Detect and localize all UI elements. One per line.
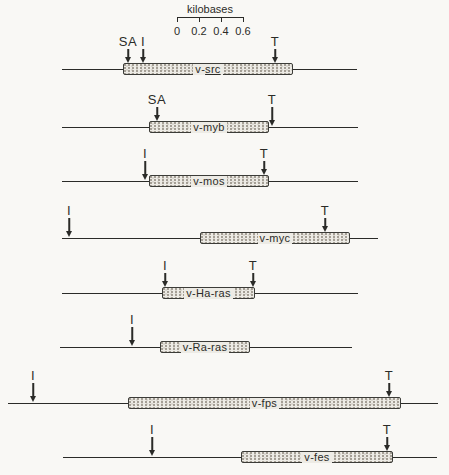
marker-arrow-head-icon <box>129 340 135 346</box>
scale-tick-label: 0 <box>174 25 180 37</box>
marker-arrow-stem <box>127 49 129 57</box>
marker-label-t: T <box>249 260 257 272</box>
marker-arrow-head-icon <box>30 396 36 402</box>
gene-label: v-Ra-ras <box>181 342 230 353</box>
scale-title: kilobases <box>187 3 233 15</box>
gene-box: v-mos <box>149 175 269 187</box>
marker-arrow-stem <box>144 161 146 174</box>
marker-label-i: I <box>141 36 145 48</box>
marker-arrow-stem <box>386 437 388 445</box>
marker-arrow-stem <box>151 437 153 450</box>
marker-label-t: T <box>383 424 391 436</box>
marker-label-t: T <box>321 205 329 217</box>
gene-label: v-src <box>193 64 222 75</box>
marker-label-t: T <box>385 370 393 382</box>
marker-arrow-stem <box>388 383 390 391</box>
marker-arrow-head-icon <box>384 445 390 451</box>
gene-box: v-myc <box>200 232 350 244</box>
marker-label-i: I <box>130 314 134 326</box>
marker-arrow-head-icon <box>386 391 392 397</box>
scale-tick-label: 0.6 <box>235 25 250 37</box>
scale-bar <box>177 17 243 18</box>
marker-arrow-head-icon <box>154 115 160 121</box>
gene-box: v-fps <box>128 397 401 409</box>
marker-arrow-head-icon <box>142 174 148 180</box>
marker-arrow-stem <box>164 273 166 281</box>
scale-tick-label: 0.4 <box>213 25 228 37</box>
gene-label-underlined: src <box>205 63 221 75</box>
marker-arrow-head-icon <box>250 281 256 287</box>
gene-box: v-Ra-ras <box>160 341 250 353</box>
marker-label-t: T <box>268 94 276 106</box>
gene-box: v-Ha-ras <box>162 287 255 299</box>
marker-label-i: I <box>31 370 35 382</box>
marker-arrow-stem <box>32 383 34 396</box>
marker-label-i: I <box>67 205 71 217</box>
gene-label: v-myc <box>258 233 293 244</box>
marker-arrow-stem <box>263 161 265 169</box>
marker-label-i: I <box>163 260 167 272</box>
marker-arrow-stem <box>156 107 158 115</box>
marker-arrow-stem <box>68 218 70 231</box>
marker-arrow-head-icon <box>261 169 267 175</box>
marker-arrow-head-icon <box>272 57 278 63</box>
gene-label: v-myb <box>191 122 226 133</box>
marker-label-sa: SA <box>148 94 166 106</box>
gene-label: v-Ha-ras <box>184 288 233 299</box>
scale-tick <box>221 17 222 22</box>
marker-arrow-stem <box>271 107 273 120</box>
marker-arrow-stem <box>252 273 254 281</box>
gene-label-prefix: v- <box>195 63 205 75</box>
gene-box: v-src <box>123 63 293 75</box>
gene-label: v-fes <box>302 452 331 463</box>
marker-arrow-stem <box>274 49 276 57</box>
scale-tick <box>177 17 178 22</box>
scale-tick <box>199 17 200 22</box>
marker-label-i: I <box>150 424 154 436</box>
marker-arrow-head-icon <box>269 120 275 126</box>
marker-arrow-head-icon <box>140 57 146 63</box>
marker-arrow-head-icon <box>149 450 155 456</box>
marker-arrow-head-icon <box>322 226 328 232</box>
marker-label-i: I <box>143 148 147 160</box>
marker-arrow-head-icon <box>162 281 168 287</box>
marker-arrow-head-icon <box>66 231 72 237</box>
gene-box: v-myb <box>149 121 269 133</box>
marker-label-sa: SA <box>119 36 137 48</box>
scale-tick <box>243 17 244 22</box>
marker-arrow-stem <box>324 218 326 226</box>
gene-label: v-mos <box>191 176 226 187</box>
marker-arrow-stem <box>142 49 144 57</box>
gene-label: v-fps <box>250 398 279 409</box>
gene-box: v-fes <box>241 451 393 463</box>
marker-arrow-stem <box>131 327 133 340</box>
oncogene-map-figure: kilobases00.20.40.6v-srcSAITv-mybSATv-mo… <box>0 0 449 475</box>
scale-tick-label: 0.2 <box>191 25 206 37</box>
marker-label-t: T <box>260 148 268 160</box>
marker-arrow-head-icon <box>125 57 131 63</box>
marker-label-t: T <box>271 36 279 48</box>
